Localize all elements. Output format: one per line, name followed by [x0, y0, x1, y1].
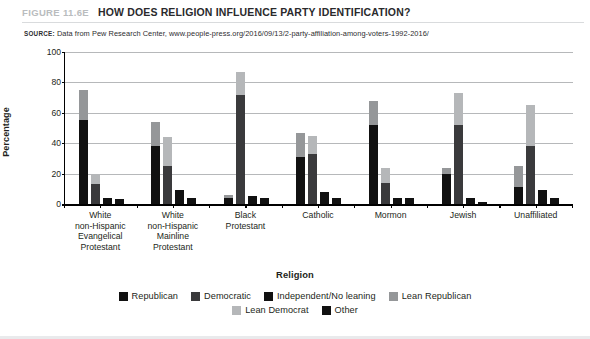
legend-swatch-icon — [119, 292, 128, 301]
figure-header: FIGURE 11.6E HOW DOES RELIGION INFLUENCE… — [0, 0, 590, 22]
figure-title: HOW DOES RELIGION INFLUENCE PARTY IDENTI… — [98, 6, 410, 18]
bar-segment-lean-republican — [514, 166, 523, 187]
y-axis-tick-label: 100 — [47, 48, 61, 57]
source-line: SOURCE: Data from Pew Research Center, w… — [0, 23, 590, 38]
bar-segment-democratic — [236, 95, 245, 204]
legend-item[interactable]: Republican — [119, 292, 178, 301]
bar — [175, 190, 184, 204]
legend-label: Other — [335, 306, 358, 315]
bar-segment-republican — [442, 174, 451, 204]
bar — [514, 166, 523, 204]
bar — [236, 72, 245, 204]
bar-segment-lean-republican — [151, 122, 160, 146]
x-axis-tick — [64, 204, 65, 208]
bar — [296, 133, 305, 204]
y-axis-tick-label: 40 — [51, 139, 61, 148]
bar-segment-democratic — [526, 146, 535, 204]
bar-group — [283, 52, 356, 204]
legend-label: Democratic — [204, 292, 251, 301]
bar-segment-lean-democrat — [381, 168, 390, 183]
y-axis-tick-label: 60 — [51, 109, 61, 118]
x-axis-tick — [499, 204, 500, 208]
bar-segment-republican — [514, 187, 523, 204]
bar-segment-lean-republican — [296, 133, 305, 157]
bar-segment-lean-republican — [369, 101, 378, 125]
legend-row-1: RepublicanDemocraticIndependent/No leani… — [0, 292, 590, 301]
bar-group — [210, 52, 283, 204]
bar — [320, 192, 329, 204]
x-axis-tick — [318, 204, 319, 208]
y-axis-tick-label: 0 — [56, 200, 61, 209]
x-axis-tick — [209, 204, 210, 208]
bar-segment-lean-democrat — [91, 174, 100, 185]
bar — [526, 105, 535, 204]
bar — [369, 101, 378, 204]
legend-label: Lean Republican — [402, 292, 472, 301]
legend-item[interactable]: Other — [322, 306, 358, 315]
bar-series-container — [65, 52, 573, 204]
legend-swatch-icon — [264, 292, 273, 301]
legend-item[interactable]: Lean Democrat — [232, 306, 308, 315]
legend-swatch-icon — [191, 292, 200, 301]
source-label: SOURCE: — [24, 30, 55, 37]
bar-group — [500, 52, 573, 204]
bar-segment-independent-no-leaning — [175, 190, 184, 204]
source-text: Data from Pew Research Center, www.peopl… — [57, 29, 429, 38]
bar-group — [428, 52, 501, 204]
bar — [442, 168, 451, 204]
x-axis-tick — [572, 204, 573, 208]
bar-segment-lean-democrat — [454, 93, 463, 125]
y-axis-label: Percentage — [1, 107, 11, 157]
legend-item[interactable]: Democratic — [191, 292, 251, 301]
legend-label: Republican — [132, 292, 178, 301]
bar-segment-lean-democrat — [526, 105, 535, 146]
x-axis-ticks — [64, 204, 572, 208]
bar — [79, 90, 88, 204]
x-axis-tick — [427, 204, 428, 208]
bar-segment-lean-democrat — [236, 72, 245, 95]
x-axis-tick — [536, 204, 537, 208]
legend-swatch-icon — [389, 292, 398, 301]
bar-segment-independent-no-leaning — [538, 190, 547, 204]
chart-area: Percentage 020406080100 White non-Hispan… — [0, 44, 590, 219]
bar-segment-democratic — [381, 183, 390, 204]
bar-segment-lean-democrat — [308, 136, 317, 154]
bar — [91, 174, 100, 204]
x-axis-tick — [100, 204, 101, 208]
bar — [381, 168, 390, 204]
bar-segment-republican — [369, 125, 378, 204]
x-axis-tick — [391, 204, 392, 208]
x-axis-tick — [245, 204, 246, 208]
legend-row-2: Lean DemocratOther — [0, 306, 590, 315]
bar-segment-democratic — [91, 184, 100, 204]
plot-region: 020406080100 — [64, 52, 573, 204]
bar-segment-lean-republican — [79, 90, 88, 120]
x-axis-tick — [354, 204, 355, 208]
y-axis-tick-label: 20 — [51, 169, 61, 178]
bar-group — [355, 52, 428, 204]
bar-segment-independent-no-leaning — [320, 192, 329, 204]
bar — [224, 195, 233, 204]
bar-segment-democratic — [454, 125, 463, 204]
legend-label: Independent/No leaning — [277, 292, 376, 301]
legend-swatch-icon — [322, 306, 331, 315]
chart-legend: RepublicanDemocraticIndependent/No leani… — [0, 292, 590, 320]
legend-item[interactable]: Lean Republican — [389, 292, 472, 301]
legend-item[interactable]: Independent/No leaning — [264, 292, 376, 301]
x-axis-tick — [137, 204, 138, 208]
x-axis-tick-labels: White non-Hispanic Evangelical Protestan… — [64, 210, 572, 264]
legend-swatch-icon — [232, 306, 241, 315]
bar-segment-republican — [79, 120, 88, 204]
x-axis-tick — [463, 204, 464, 208]
bar — [308, 136, 317, 204]
figure-number: FIGURE 11.6E — [22, 7, 89, 18]
bar — [248, 196, 257, 204]
bar — [151, 122, 160, 204]
x-axis-category-label: Unaffiliated — [490, 210, 581, 221]
y-axis-tick-label: 80 — [51, 78, 61, 87]
bar-segment-republican — [296, 157, 305, 204]
bar-segment-democratic — [308, 154, 317, 204]
x-axis-tick — [282, 204, 283, 208]
bar — [538, 190, 547, 204]
bar-segment-independent-no-leaning — [248, 196, 257, 204]
